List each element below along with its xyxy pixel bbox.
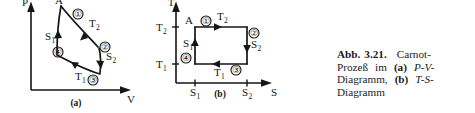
pv-step-1-number-text: ① <box>74 9 82 19</box>
ts-xtick-s1-sub: 1 <box>197 92 201 101</box>
ts-label-s1: S 1 <box>183 37 194 52</box>
caption-diagramm-word-1: Diagramm, <box>337 73 388 85</box>
pv-point-a-label: A <box>55 0 63 6</box>
pv-label-s2-sub: 2 <box>113 56 117 65</box>
ts-panel-label: (b) <box>214 89 226 100</box>
ts-step-4-number: ④ <box>181 53 191 63</box>
pv-y-axis <box>27 2 35 91</box>
figure-caption: Abb.3.21.Carnot- Prozeßim(a)P-V- Diagram… <box>337 48 473 98</box>
ts-label-s1-sub: 1 <box>190 43 194 52</box>
ts-ytick-t1-sub: 1 <box>163 64 167 73</box>
caption-line-1: Abb.3.21.Carnot- <box>337 48 473 61</box>
ts-ytick-t1-base: T <box>156 58 163 70</box>
pv-label-t2-base: T <box>89 17 96 29</box>
ts-step-1-number-text: ① <box>202 16 210 26</box>
ts-step-2-number: ② <box>249 28 259 38</box>
ts-label-t2-sub: 2 <box>224 16 228 25</box>
ts-ytick-t1-label: T 1 <box>156 58 167 73</box>
pv-label-t2: T 2 <box>89 17 100 32</box>
ts-arrow-step-2 <box>243 45 251 53</box>
pv-label-t1-sub: 1 <box>82 76 86 85</box>
caption-line-2: Prozeßim(a)P-V- <box>337 61 473 74</box>
ts-y-axis <box>172 2 180 84</box>
caption-pv-italic: P-V- <box>414 61 435 73</box>
pv-label-t1: T 1 <box>75 70 86 85</box>
ts-ytick-t2-base: T <box>156 21 163 33</box>
pv-label-s2: S 2 <box>106 50 117 65</box>
pv-step-1-number: ① <box>73 9 83 19</box>
caption-line1-text: Carnot- <box>397 48 431 60</box>
caption-line-4: Diagramm <box>337 86 473 99</box>
ts-xtick-s2-base: S <box>242 86 248 98</box>
ts-xtick-s1-label: S 1 <box>190 86 201 101</box>
ts-ytick-t2-label: T 2 <box>156 21 167 36</box>
pv-diagram-panel: P V A ① ② <box>0 0 150 113</box>
ts-step-3-number-text: ③ <box>232 65 240 75</box>
ts-label-s1-base: S <box>183 37 189 49</box>
ts-label-s2-sub: 2 <box>258 44 262 53</box>
caption-abb-label: Abb. <box>337 48 360 60</box>
pv-x-axis <box>31 86 131 94</box>
caption-figure-number: 3.21. <box>364 48 386 60</box>
ts-cycle-rectangle <box>195 27 247 64</box>
pv-step-3-number-text: ③ <box>89 75 97 85</box>
caption-line-3: Diagramm,(b)T-S- <box>337 73 473 86</box>
caption-marker-a: (a) <box>394 61 407 73</box>
pv-step-4-number-text: ④ <box>54 47 62 57</box>
pv-y-axis-label: P <box>22 0 28 8</box>
ts-ytick-t2-sub: 2 <box>163 27 167 36</box>
ts-step-4-number-text: ④ <box>182 53 190 63</box>
caption-ts-italic: T-S- <box>415 73 433 85</box>
ts-step-3-number: ③ <box>231 65 241 75</box>
pv-arrow-step-1 <box>80 32 88 41</box>
ts-label-t2: T 2 <box>217 10 228 25</box>
pv-panel-label: (a) <box>70 98 81 109</box>
pv-x-axis-label: V <box>127 93 135 105</box>
pv-label-s2-base: S <box>106 50 112 62</box>
ts-point-a-label: A <box>185 14 193 26</box>
pv-label-s1: S 1 <box>45 30 56 45</box>
ts-step-1-number: ① <box>201 16 211 26</box>
pv-label-s1-sub: 1 <box>52 36 56 45</box>
pv-y-axis-arrow <box>27 2 35 13</box>
pv-label-t2-sub: 2 <box>96 23 100 32</box>
ts-xtick-s2-label: S 2 <box>242 86 253 101</box>
caption-marker-b: (b) <box>395 73 409 85</box>
ts-label-t2-base: T <box>217 10 224 22</box>
ts-xtick-s2-sub: 2 <box>249 92 253 101</box>
ts-label-t1: T 1 <box>214 66 225 81</box>
pv-label-t1-base: T <box>75 70 82 82</box>
ts-step-2-number-text: ② <box>250 28 258 38</box>
ts-diagram-panel: T S T 2 T 1 S 1 S 2 <box>150 0 300 113</box>
ts-label-s2: S 2 <box>251 38 262 53</box>
caption-prozess-word: Prozeß <box>337 61 368 73</box>
figure-container: P V A ① ② <box>0 0 475 113</box>
ts-y-axis-label: T <box>168 0 175 8</box>
pv-step-3-number: ③ <box>88 75 98 85</box>
pv-label-s1-base: S <box>45 30 51 42</box>
caption-diagramm-word-2: Diagramm <box>337 86 385 98</box>
pv-diagram-svg: P V A ① ② <box>0 0 150 113</box>
ts-label-t1-base: T <box>214 66 221 78</box>
ts-xtick-s1-base: S <box>190 86 196 98</box>
pv-step-4-number: ④ <box>53 47 63 57</box>
ts-arrow-step-1 <box>214 23 222 31</box>
ts-label-s2-base: S <box>251 38 257 50</box>
caption-im-word: im <box>375 61 387 73</box>
ts-label-t1-sub: 1 <box>221 72 225 81</box>
ts-diagram-svg: T S T 2 T 1 S 1 S 2 <box>150 0 300 113</box>
ts-x-axis-label: S <box>271 86 277 98</box>
